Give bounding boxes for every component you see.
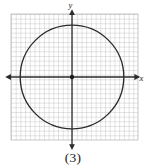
- coordinate-plane-graph: y x: [0, 0, 146, 152]
- figure-container: y x (3): [0, 0, 146, 168]
- y-axis-top-arrowhead: [69, 9, 75, 15]
- origin-dot: [70, 75, 74, 79]
- y-axis-label: y: [68, 0, 73, 10]
- x-axis-left-arrowhead: [5, 74, 11, 80]
- figure-caption: (3): [0, 150, 146, 166]
- x-axis-label: x: [139, 73, 144, 83]
